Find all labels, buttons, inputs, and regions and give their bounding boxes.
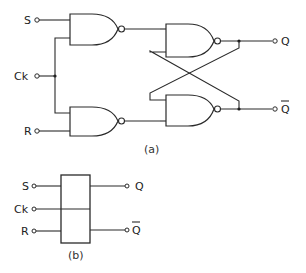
wire-ck-to-bottom-gate <box>55 76 70 113</box>
input-s-terminal[interactable] <box>35 18 39 22</box>
output-q-label: Q <box>281 35 290 48</box>
input-ck-terminal[interactable] <box>35 74 39 78</box>
nand-gate-latch-top <box>166 24 214 57</box>
output-qbar-label: Q <box>281 103 290 116</box>
inversion-bubble-latch-bottom <box>215 106 221 112</box>
input-ck-label: Ck <box>14 70 29 83</box>
figure-b-block: S Ck R Q Q (b) <box>14 175 144 262</box>
wire-ck-to-top-gate <box>55 38 70 76</box>
figure-a-circuit: S Ck R Q Q <box>14 14 290 156</box>
input-r-terminal[interactable] <box>35 129 39 133</box>
nand-gate-r <box>70 107 118 136</box>
clocked-sr-flipflop-diagram: S Ck R Q Q <box>0 0 306 273</box>
output-qbar-terminal[interactable] <box>273 107 277 111</box>
input-r-label: R <box>24 125 32 138</box>
block-output-q-terminal[interactable] <box>125 184 129 188</box>
inversion-bubble-r <box>119 118 125 124</box>
block-input-r-terminal[interactable] <box>32 229 36 233</box>
block-input-ck-terminal[interactable] <box>32 207 36 211</box>
nand-gate-s <box>70 14 118 45</box>
inversion-bubble-latch-top <box>215 38 221 44</box>
block-output-qbar-terminal[interactable] <box>125 228 129 232</box>
block-output-q-label: Q <box>135 180 144 193</box>
block-input-s-label: S <box>22 180 29 193</box>
inversion-bubble-s <box>119 26 125 32</box>
output-q-terminal[interactable] <box>273 39 277 43</box>
block-input-r-label: R <box>21 225 29 238</box>
block-input-s-terminal[interactable] <box>32 184 36 188</box>
block-input-ck-label: Ck <box>14 203 29 216</box>
block-output-qbar-label: Q <box>132 224 141 237</box>
nand-gate-latch-bottom <box>166 95 214 126</box>
input-s-label: S <box>24 14 31 27</box>
caption-b: (b) <box>68 249 84 262</box>
caption-a: (a) <box>144 143 159 156</box>
